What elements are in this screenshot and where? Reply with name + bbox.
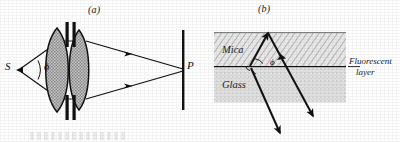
screen-at-P [182,30,184,110]
image-point-label-p: P [187,59,194,71]
fluorescent-callout-line1: Fluorescent [349,56,392,67]
fluorescent-layer-callout: Fluorescent layer [349,56,392,77]
layer-label-glass: Glass [222,79,246,90]
optics-figure: (a) (b) S P ϕ ϕ Mica Glass Fluorescent l… [0,0,400,142]
angle-arc-phi-a [38,61,40,80]
converging-rays-to-P [86,41,183,99]
panel-a [16,22,184,120]
figure-canvas [0,0,400,142]
angle-label-phi-a: ϕ [44,61,49,72]
panel-b-label: (b) [258,3,270,14]
lens-2 [69,30,89,110]
layer-label-mica: Mica [222,44,244,55]
scan-artifact-bottom [30,132,126,140]
fluorescent-callout-line2: layer [349,67,392,78]
angle-label-phi-b: ϕ [270,57,275,67]
panel-a-label: (a) [88,4,100,15]
source-label-s: S [5,60,11,72]
